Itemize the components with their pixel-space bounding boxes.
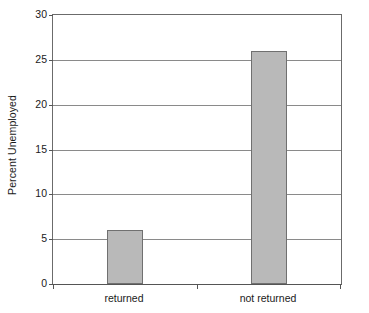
y-axis-tick-mark <box>49 105 53 106</box>
y-axis-title-text: Percent Unemployed <box>6 95 18 195</box>
gridline <box>53 194 341 195</box>
plot-area <box>52 14 342 285</box>
gridline <box>53 60 341 61</box>
x-axis-category-label: not returned <box>196 292 340 304</box>
y-axis-tick-mark <box>49 15 53 16</box>
gridlines <box>53 15 341 284</box>
bar <box>251 51 287 284</box>
y-axis-tick-label: 10 <box>23 188 47 198</box>
y-axis-tick-label: 15 <box>23 144 47 154</box>
y-axis-tick-label: 5 <box>23 233 47 243</box>
gridline <box>53 150 341 151</box>
y-axis-tick-mark <box>49 194 53 195</box>
gridline <box>53 239 341 240</box>
y-axis-tick-mark <box>49 150 53 151</box>
y-axis-tick-label: 20 <box>23 99 47 109</box>
x-axis-category-label: returned <box>52 292 196 304</box>
x-axis-tick-mark <box>53 284 54 289</box>
gridline <box>53 105 341 106</box>
y-axis-tick-label: 25 <box>23 54 47 64</box>
x-axis-tick-mark <box>197 284 198 289</box>
y-axis-tick-mark <box>49 60 53 61</box>
y-axis-tick-label: 30 <box>23 9 47 19</box>
y-axis-tick-mark <box>49 239 53 240</box>
x-axis-tick-mark <box>340 284 341 289</box>
y-axis-tick-label: 0 <box>23 278 47 288</box>
y-axis-title: Percent Unemployed <box>0 0 24 290</box>
bar-chart-figure: Percent Unemployed 051015202530 returned… <box>0 0 369 313</box>
y-axis-tick-labels: 051015202530 <box>22 0 47 313</box>
bar <box>107 230 143 284</box>
